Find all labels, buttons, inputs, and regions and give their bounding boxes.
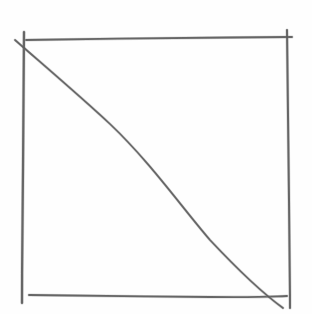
sketch-svg — [0, 0, 312, 314]
diagonal-line — [15, 40, 283, 308]
sketch-canvas — [0, 0, 312, 314]
diagonal-halo — [15, 40, 283, 308]
pencil-strokes — [15, 30, 292, 308]
